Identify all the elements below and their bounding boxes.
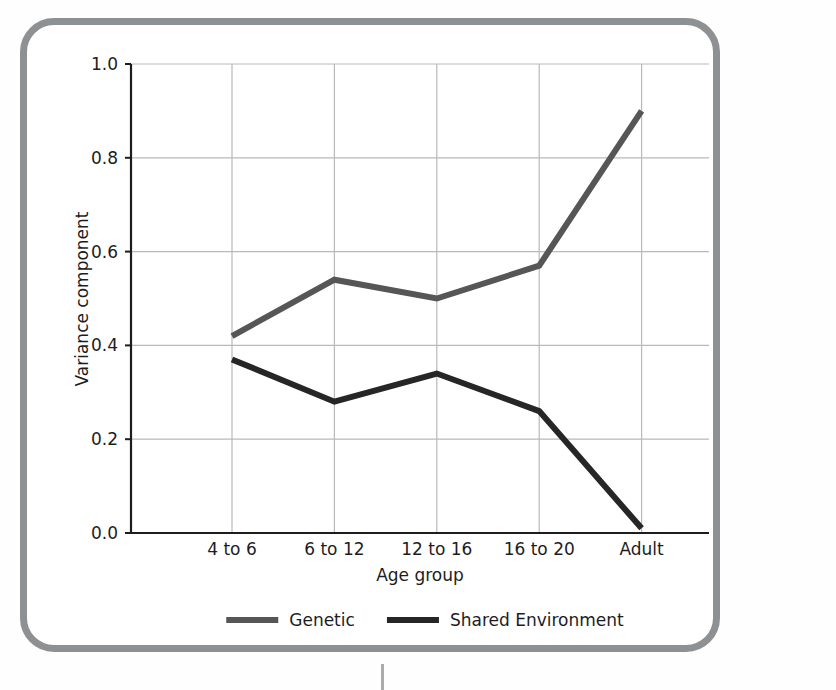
y-tick-label: 0.2 xyxy=(91,429,118,449)
x-tick-label: 12 to 16 xyxy=(401,539,472,559)
x-tick-label: 6 to 12 xyxy=(304,539,364,559)
x-tick-label: Adult xyxy=(619,539,664,559)
y-tick-label: 0.8 xyxy=(91,148,118,168)
x-tick-label: 16 to 20 xyxy=(504,539,575,559)
y-tick-label: 0.4 xyxy=(91,335,118,355)
y-tick-label: 0.6 xyxy=(91,242,118,262)
y-gridlines xyxy=(131,64,709,439)
legend-label: Genetic xyxy=(289,610,355,630)
chart-svg: 0.00.20.40.60.81.0 4 to 66 to 1212 to 16… xyxy=(0,0,836,690)
y-tick-label: 0.0 xyxy=(91,523,118,543)
x-axis-tick-labels: 4 to 66 to 1212 to 1616 to 20Adult xyxy=(207,539,664,559)
legend-label: Shared Environment xyxy=(450,610,624,630)
y-axis-title: Variance component xyxy=(72,211,92,386)
y-axis-ticks: 0.00.20.40.60.81.0 xyxy=(91,54,131,543)
y-tick-label: 1.0 xyxy=(91,54,118,74)
scanned-page: 0.00.20.40.60.81.0 4 to 66 to 1212 to 16… xyxy=(0,0,836,690)
chart-legend: GeneticShared Environment xyxy=(226,610,624,630)
line-chart: 0.00.20.40.60.81.0 4 to 66 to 1212 to 16… xyxy=(0,0,836,690)
x-axis-title: Age group xyxy=(376,565,464,585)
x-tick-label: 4 to 6 xyxy=(207,539,257,559)
